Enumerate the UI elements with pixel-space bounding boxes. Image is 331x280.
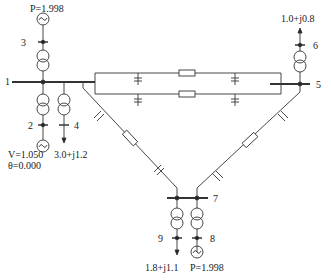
load-9-arrow-icon <box>175 250 179 255</box>
bus-6-label: 6 <box>313 41 318 51</box>
gen8-power-label: P=1.998 <box>190 263 224 273</box>
bus-4-label: 4 <box>74 121 79 131</box>
load4-label: 3.0+j1.2 <box>54 150 87 160</box>
load9-label: 1.8+j1.1 <box>145 263 178 273</box>
line-1-5a-impedance <box>179 70 195 76</box>
bus-9-label: 9 <box>158 234 163 244</box>
load-4-arrow-icon <box>62 138 66 143</box>
gen2-voltage-label: V=1.050 <box>8 150 43 160</box>
bus-8-label: 8 <box>210 234 215 244</box>
power-system-diagram <box>0 0 331 280</box>
shunt-capacitors <box>134 73 239 106</box>
gen3-power-label: P=1.998 <box>30 4 64 14</box>
gen2-angle-label: θ=0.000 <box>8 161 41 171</box>
load6-label: 1.0+j0.8 <box>281 14 314 24</box>
load-6-arrow-icon <box>298 28 302 33</box>
bus-5-label: 5 <box>316 80 321 90</box>
bus-1-label: 1 <box>5 77 10 87</box>
bus-3-label: 3 <box>21 38 26 48</box>
bus-7-label: 7 <box>213 194 218 204</box>
bus-2-label: 2 <box>28 121 33 131</box>
line-1-5b-impedance <box>179 91 195 97</box>
